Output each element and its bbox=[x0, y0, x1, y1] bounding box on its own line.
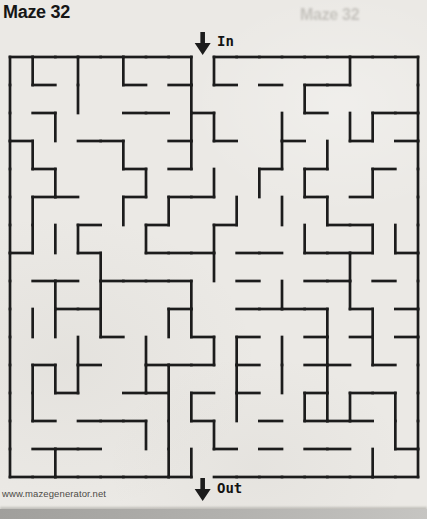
maze-drawing bbox=[0, 0, 427, 519]
exit-label: Out bbox=[217, 480, 242, 496]
footer-url: www.mazegenerator.net bbox=[2, 488, 106, 499]
maze-walls bbox=[10, 57, 418, 477]
entry-label: In bbox=[217, 33, 234, 49]
scan-page-edge bbox=[0, 509, 427, 519]
entry-exit-arrows bbox=[195, 32, 211, 501]
scanned-maze-page: Maze 32 Maze 32 In Out www.mazegenerator… bbox=[0, 0, 427, 519]
